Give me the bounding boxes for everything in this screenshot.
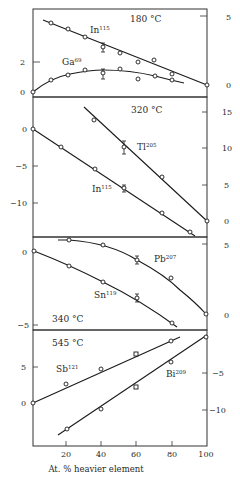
x-axis-label: At. % heavier element — [47, 464, 144, 474]
p1-ga69-points — [31, 67, 174, 94]
isotope-effect-chart: 2 0 5 0 180 °C — [0, 0, 240, 483]
panel-2-frame — [33, 97, 207, 237]
p4-left-tick-5: 5 — [21, 363, 26, 372]
p1-left-tick-2: 2 — [20, 58, 25, 67]
p3-right-tick-0: 0 — [224, 311, 229, 320]
p1-in115-label: In115 — [90, 25, 110, 35]
p4-right-tick-minus5: −5 — [212, 369, 224, 378]
p1-ga69-fit-curve — [33, 70, 184, 92]
p3-left-tick-0: 0 — [22, 248, 27, 257]
panel-1: 2 0 5 0 180 °C — [20, 13, 231, 97]
p2-left-tick-0: 0 — [22, 125, 27, 134]
p3-pb207-label: Pb207 — [154, 254, 177, 264]
x-tick-40: 40 — [96, 450, 106, 459]
panel-3: 0 −5 5 0 340 °C Pb207 Sn119 — [17, 238, 229, 330]
p4-temperature-label: 545 °C — [52, 338, 84, 348]
p3-sn119-label: Sn119 — [94, 290, 117, 300]
p2-in115-fit-line — [33, 129, 195, 236]
p3-temperature-label: 340 °C — [52, 314, 84, 324]
x-axis: 20 40 60 80 100 At. % heavier element — [47, 450, 213, 474]
p4-right-tick-minus10: −10 — [209, 406, 226, 415]
p4-bi209-fit-line — [58, 335, 207, 435]
p1-left-tick-0: 0 — [20, 88, 25, 97]
x-tick-60: 60 — [131, 450, 141, 459]
p2-left-tick-minus10: −10 — [10, 199, 27, 208]
p1-right-tick-5: 5 — [226, 13, 231, 22]
p4-bi209-points — [65, 335, 208, 431]
p2-in115-label: In115 — [92, 184, 112, 194]
p1-ga69-label: Ga69 — [62, 57, 82, 67]
p1-temperature-label: 180 °C — [130, 14, 162, 24]
p3-pb207-fit-curve — [58, 240, 206, 314]
p2-left-tick-minus5: −5 — [15, 162, 27, 171]
x-tick-20: 20 — [61, 450, 71, 459]
p2-right-tick-5: 5 — [224, 181, 229, 190]
p2-temperature-label: 320 °C — [131, 105, 163, 115]
p3-pb207-points — [67, 238, 208, 316]
panel-4: 5 0 −5 −10 545 °C Sb121 Bi209 — [21, 335, 226, 446]
x-tick-80: 80 — [167, 450, 177, 459]
p2-right-tick-0: 0 — [224, 217, 229, 226]
p3-right-tick-5: 5 — [224, 241, 229, 250]
p4-sb121-label: Sb121 — [56, 364, 78, 374]
p2-tl205-label: Tl205 — [137, 142, 157, 152]
p3-left-tick-minus5: −5 — [17, 321, 29, 330]
p1-right-tick-0: 0 — [226, 81, 231, 90]
p2-right-tick-15: 15 — [222, 108, 232, 117]
p4-bi209-label: Bi209 — [166, 369, 186, 379]
p2-right-tick-10: 10 — [222, 144, 232, 153]
panel-2: 0 −5 −10 15 10 5 0 320 °C Tl205 In115 — [10, 105, 232, 236]
p4-left-tick-0: 0 — [21, 399, 26, 408]
x-tick-100: 100 — [198, 450, 213, 459]
